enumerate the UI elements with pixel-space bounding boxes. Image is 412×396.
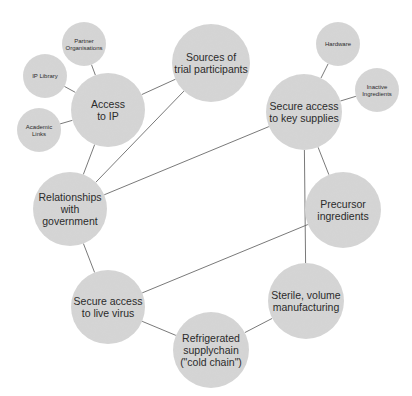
node-label-line: manufacturing [273,301,340,313]
node-refrigerated-supplychain: Refrigeratedsupplychain("cold chain") [173,312,249,388]
node-label-line: Relationships [38,191,101,203]
node-label-line: Links [32,131,46,137]
node-secure-access-to-live-virus: Secure accessto live virus [71,270,145,344]
node-sterile-volume-manufacturing: Sterile, volumemanufacturing [268,263,344,339]
edge-access-to-ip-to-relationships-with-government [83,145,94,175]
node-label-line: Organisations [65,45,102,51]
node-label-line: ingredients [317,210,368,222]
node-relationships-with-government: Relationshipswithgovernment [33,172,107,246]
edge-secure-access-to-key-supplies-to-precursor-ingredients [318,147,329,174]
node-label-line: Sterile, volume [271,289,341,301]
node-label-line: Partner [74,38,94,44]
node-label-line: Secure access [270,100,339,112]
node-label-line: trial participants [174,63,248,75]
edge-ip-library-to-access-to-ip [64,86,75,92]
node-label-line: Sources of [186,51,236,63]
network-diagram: Accessto IPSources oftrial participantsR… [0,0,412,396]
node-label-line: supplychain [183,344,239,356]
edge-refrigerated-supplychain-to-sterile-volume-manufacturing [245,318,272,332]
node-label-line: Precursor [320,198,366,210]
node-label-line: government [42,215,98,227]
edge-access-to-ip-to-sources-of-trial-participants [142,79,176,94]
node-label-line: Refrigerated [182,332,240,344]
node-inactive-ingredients: InactiveIngredients [355,68,399,112]
node-hardware: Hardware [316,22,360,66]
node-precursor-ingredients: Precursoringredients [305,172,381,248]
node-label-line: Hardware [325,41,352,47]
node-label-line: Access [91,98,125,110]
edge-relationships-with-government-to-secure-access-to-live-virus [83,244,94,273]
node-label-line: Ingredients [362,91,392,97]
node-label-line: Inactive [367,84,388,90]
node-label-line: Academic [26,124,52,130]
node-label-line: Secure access [74,295,143,307]
node-label-line: to IP [97,110,119,122]
node-partner-organisations: PartnerOrganisations [62,22,106,66]
node-label-line: with [60,203,80,215]
node-label-line: IP Library [32,73,58,79]
edge-hardware-to-secure-access-to-key-supplies [321,64,328,78]
edge-academic-links-to-access-to-ip [60,120,72,124]
node-academic-links: AcademicLinks [17,108,61,152]
nodes-layer: Accessto IPSources oftrial participantsR… [17,22,399,388]
node-secure-access-to-key-supplies: Secure accessto key supplies [266,74,342,150]
edge-secure-access-to-live-virus-to-refrigerated-supplychain [142,321,176,335]
node-label-line: ("cold chain") [180,356,242,368]
node-label-line: to key supplies [269,112,338,124]
node-sources-of-trial-participants: Sources oftrial participants [172,24,250,102]
edge-partner-organisations-to-access-to-ip [92,65,96,76]
node-label-line: to live virus [82,307,135,319]
node-ip-library: IP Library [23,54,67,98]
edge-inactive-ingredients-to-secure-access-to-key-supplies [340,96,356,101]
node-access-to-ip: Accessto IP [71,73,145,147]
